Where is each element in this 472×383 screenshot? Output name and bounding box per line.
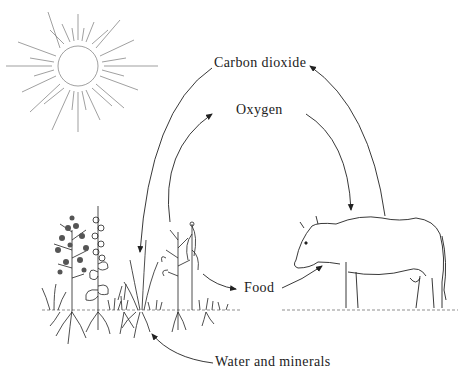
plants-icon [42,206,228,344]
arrow-water [152,334,213,363]
label-oxygen: Oxygen [236,102,283,118]
arrow-o2-down [306,114,351,210]
label-food: Food [244,280,274,296]
label-water-and-minerals: Water and minerals [215,354,331,370]
label-carbon-dioxide: Carbon dioxide [214,55,306,71]
arrow-co2-down [140,68,212,252]
cow-icon [294,216,446,308]
arrow-food-in [203,274,236,289]
sun-icon [6,12,158,132]
arrow-food-out [282,266,322,288]
arrow-co2-up [310,66,385,216]
diagram-canvas: Carbon dioxide Oxygen Food Water and min… [0,0,472,383]
arrow-o2-up [168,114,212,222]
